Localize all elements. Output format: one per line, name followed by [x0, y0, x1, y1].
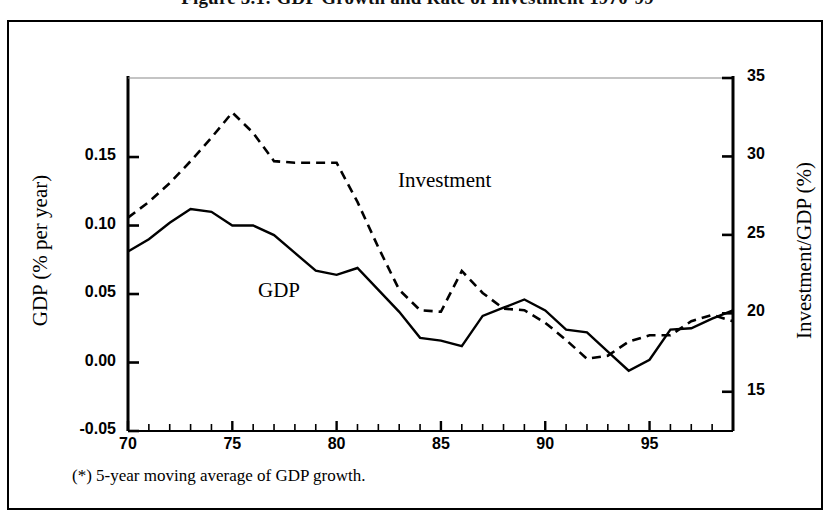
x-tick-85: 85	[416, 435, 466, 453]
figure-title: Figure 5.1: GDP Growth and Rate of Inves…	[0, 0, 835, 9]
y-tick-right-35: 35	[747, 67, 807, 85]
y-axis-left-title: GDP (% per year)	[28, 151, 53, 351]
series-label-investment: Investment	[398, 168, 491, 193]
x-tick-75: 75	[207, 435, 257, 453]
y-tick-right-20: 20	[747, 302, 807, 320]
figure-container: Figure 5.1: GDP Growth and Rate of Inves…	[0, 0, 835, 531]
y-tick-right-15: 15	[747, 381, 807, 399]
x-tick-95: 95	[625, 435, 675, 453]
x-tick-70: 70	[103, 435, 153, 453]
x-tick-90: 90	[520, 435, 570, 453]
x-tick-80: 80	[312, 435, 362, 453]
y-axis-right-title: Investment/GDP (%)	[792, 151, 817, 351]
y-tick-right-30: 30	[747, 145, 807, 163]
y-tick-left-015: 0.15	[46, 146, 116, 164]
y-tick-left-010: 0.10	[46, 215, 116, 233]
figure-footnote: (*) 5-year moving average of GDP growth.	[72, 466, 365, 486]
y-tick-right-25: 25	[747, 224, 807, 242]
series-label-gdp: GDP	[258, 278, 300, 303]
y-tick-left-000: 0.00	[46, 352, 116, 370]
y-tick-left-005: 0.05	[46, 283, 116, 301]
